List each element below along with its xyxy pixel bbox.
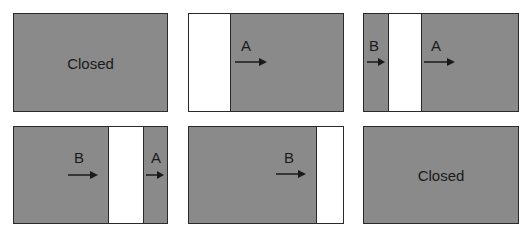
label-b: B bbox=[284, 150, 294, 165]
arrow-right-icon bbox=[146, 170, 164, 180]
arrow-right-icon bbox=[367, 57, 385, 67]
panel-5: B bbox=[188, 126, 344, 224]
label-b: B bbox=[74, 150, 84, 165]
panel-1-closed: Closed bbox=[13, 13, 168, 112]
label-b: B bbox=[369, 38, 379, 53]
opening-region bbox=[316, 127, 343, 223]
opening-region bbox=[388, 14, 422, 111]
opening-region bbox=[108, 127, 144, 223]
arrow-right-icon bbox=[68, 170, 98, 180]
arrow-right-icon bbox=[424, 57, 455, 67]
opening-region bbox=[189, 14, 231, 111]
panel-2: A bbox=[188, 13, 344, 112]
label-a: A bbox=[431, 38, 441, 53]
panel-4: B A bbox=[13, 126, 168, 224]
panel-3: B A bbox=[363, 13, 519, 112]
label-a: A bbox=[151, 150, 161, 165]
closed-label: Closed bbox=[364, 167, 518, 184]
label-a: A bbox=[241, 38, 251, 53]
panel-6-closed: Closed bbox=[363, 126, 519, 224]
arrow-right-icon bbox=[276, 169, 306, 179]
closed-label: Closed bbox=[14, 54, 167, 71]
arrow-right-icon bbox=[235, 57, 267, 67]
